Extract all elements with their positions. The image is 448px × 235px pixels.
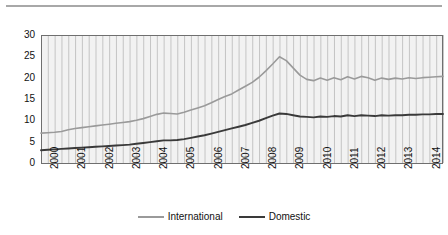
x-axis-tick-label: 2000 [50,147,60,169]
x-axis-tick-label: 2004 [159,147,169,169]
x-axis-tick-label: 2013 [404,147,414,169]
y-axis-tick-label: 5 [9,137,35,147]
line-swatch-domestic-icon [239,216,265,218]
legend-label-domestic: Domestic [269,212,311,222]
legend-entry-domestic[interactable]: Domestic [239,212,311,222]
x-axis-tick-label: 2014 [432,147,442,169]
plot-area-wrapper: 051015202530 200020012002200320042005200… [0,0,448,235]
x-axis-tick-label: 2008 [268,147,278,169]
x-axis-tick-label: 2005 [186,147,196,169]
x-axis-tick-label: 2001 [77,147,87,169]
y-axis-tick-label: 15 [9,94,35,104]
chart-figure: 051015202530 200020012002200320042005200… [0,0,448,235]
x-axis-tick-label: 2002 [105,147,115,169]
x-axis-tick-label: 2003 [132,147,142,169]
x-axis-tick-label: 2007 [241,147,251,169]
y-axis-tick-label: 10 [9,115,35,125]
y-axis-tick-label: 30 [9,30,35,40]
plot-background [41,35,443,163]
legend-entry-international[interactable]: International [138,212,223,222]
x-axis-tick-label: 2011 [350,147,360,169]
chart-legend: International Domestic [0,209,448,225]
x-axis-tick-label: 2010 [323,147,333,169]
line-swatch-international-icon [138,216,164,218]
y-axis-tick-label: 25 [9,51,35,61]
x-axis-tick-label: 2006 [214,147,224,169]
y-axis-tick-label: 20 [9,73,35,83]
line-chart-canvas [0,0,448,235]
legend-label-international: International [168,212,223,222]
x-axis-tick-label: 2009 [295,147,305,169]
x-axis-tick-label: 2012 [377,147,387,169]
y-axis-tick-label: 0 [9,158,35,168]
